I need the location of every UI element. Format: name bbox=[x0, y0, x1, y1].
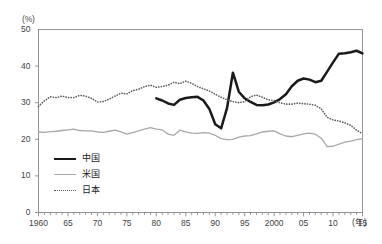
y-axis-tick-label: 20 bbox=[9, 134, 31, 144]
legend-item-china: 中国 bbox=[54, 152, 100, 164]
y-axis-tick-label: 10 bbox=[9, 170, 31, 180]
series-layer bbox=[39, 51, 363, 147]
legend-swatch-japan-icon bbox=[54, 185, 76, 195]
chart-container: (%) 01020304050 196065707580859095200005… bbox=[0, 0, 382, 244]
legend-label-china: 中国 bbox=[82, 154, 100, 163]
legend-label-usa: 米国 bbox=[82, 170, 100, 179]
y-axis-tick-label: 50 bbox=[9, 24, 31, 34]
legend-swatch-china-icon bbox=[54, 153, 76, 163]
y-axis-tick-label: 40 bbox=[9, 61, 31, 71]
x-axis-unit-label: (年) bbox=[352, 215, 367, 227]
y-axis-unit-label: (%) bbox=[22, 14, 35, 24]
legend-item-usa: 米国 bbox=[54, 168, 100, 180]
legend-item-japan: 日本 bbox=[54, 184, 100, 196]
series-line-usa bbox=[39, 128, 363, 147]
series-line-china bbox=[156, 51, 362, 129]
y-axis-tick-label: 0 bbox=[9, 207, 31, 217]
series-line-japan bbox=[39, 81, 363, 134]
chart-legend: 中国 米国 日本 bbox=[54, 152, 100, 196]
plot-area bbox=[0, 0, 382, 244]
y-axis-tick-label: 30 bbox=[9, 97, 31, 107]
legend-swatch-usa-icon bbox=[54, 169, 76, 179]
legend-label-japan: 日本 bbox=[82, 186, 100, 195]
